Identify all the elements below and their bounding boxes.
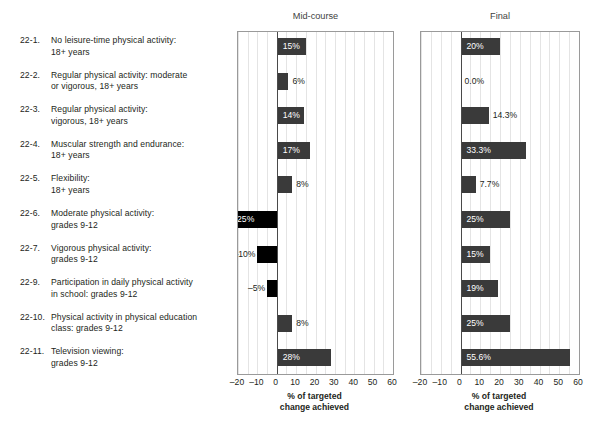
indicator-text-line2: grades 9-12 [51,358,228,370]
zero-axis-line [461,32,462,374]
gridline [316,32,317,374]
bar-value-label: 17% [283,142,300,159]
indicator-text-line1: Television viewing: [51,346,228,358]
gridline [345,32,346,374]
bar-value-label: 0.0% [465,73,485,90]
indicator-text: Vigorous physical activity:grades 9-12 [51,243,228,266]
indicator-label-row: 22-11.Television viewing:grades 9-12 [20,346,228,369]
gridline [257,32,258,374]
x-axis-tick-label: 0 [266,377,286,387]
gridline [520,32,521,374]
bar-value-label: –25% [237,211,254,228]
x-axis-caption-line2: change achieved [420,402,578,413]
plot-area: 15%6%14%17%8%–25%–10%–5%8%28% [237,31,394,375]
x-axis-tick-label: –10 [430,377,450,387]
bar-value-label: 14% [283,107,300,124]
figure-root: 22-1.No leisure-time physical activity:1… [0,0,603,433]
x-axis-tick-label: 20 [489,377,509,387]
x-axis-tick-label: 40 [343,377,363,387]
x-axis-tick-label: 30 [509,377,529,387]
bar [461,107,489,124]
gridline [383,32,384,374]
indicator-text: Moderate physical activity:grades 9-12 [51,208,228,231]
bar-value-label: 33.3% [467,142,491,159]
gridline [238,32,239,374]
gridline [335,32,336,374]
gridline [569,32,570,374]
indicator-label-row: 22-2.Regular physical activity: moderate… [20,70,228,93]
indicator-label-column: 22-1.No leisure-time physical activity:1… [0,0,228,433]
bar [267,280,277,297]
gridline [364,32,365,374]
indicator-number: 22-3. [20,104,51,116]
x-axis-tick-label: 0 [450,377,470,387]
bar [277,315,293,332]
indicator-text: Regular physical activity: moderateor vi… [51,70,228,93]
bar-value-label: 15% [467,246,484,263]
indicator-text-line2: vigorous, 18+ years [51,116,228,128]
bar-value-label: 6% [292,73,304,90]
gridline [540,32,541,374]
gridline [421,32,422,374]
x-axis-caption-line1: % of targeted [420,391,578,402]
x-axis-tick-label: 60 [568,377,588,387]
bar-value-label: 20% [467,38,484,55]
x-axis-tick-label: 50 [548,377,568,387]
bar-value-label: 7.7% [480,176,500,193]
bar-value-label: 55.6% [467,349,491,366]
indicator-label-row: 22-4.Muscular strength and endurance:18+… [20,139,228,162]
panel-title: Final [420,11,580,21]
indicator-number: 22-11. [20,346,51,358]
indicator-text-line2: 18+ years [51,150,228,162]
indicator-number: 22-9. [20,277,51,289]
x-axis-tick-label: –20 [410,377,430,387]
x-axis-caption-line1: % of targeted [237,391,392,402]
chart-panel-final: Final20%0.0%14.3%33.3%7.7%25%15%19%25%55… [420,0,580,433]
indicator-text-line2: or vigorous, 18+ years [51,81,228,93]
indicator-number: 22-7. [20,243,51,255]
indicator-text-line1: Moderate physical activity: [51,208,228,220]
indicator-number: 22-5. [20,173,51,185]
indicator-number: 22-10. [20,312,51,324]
indicator-text: Physical activity in physical educationc… [51,312,228,335]
indicator-number: 22-1. [20,35,51,47]
x-axis-ticks: –20–100102030405060 [420,377,578,389]
gridline [325,32,326,374]
x-axis-tick-label: 20 [305,377,325,387]
bar-value-label: 8% [296,315,308,332]
indicator-number: 22-2. [20,70,51,82]
indicator-label-row: 22-10.Physical activity in physical educ… [20,312,228,335]
x-axis-ticks: –20–100102030405060 [237,377,392,389]
gridline [451,32,452,374]
indicator-text-line1: Participation in daily physical activity [51,277,228,289]
indicator-text-line2: grades 9-12 [51,220,228,232]
bar [461,176,476,193]
bar-value-label: 14.3% [493,107,517,124]
bar [277,176,293,193]
x-axis-tick-label: 60 [382,377,402,387]
x-axis-tick-label: 40 [529,377,549,387]
gridline [579,32,580,374]
indicator-text-line1: Muscular strength and endurance: [51,139,228,151]
indicator-text-line1: Physical activity in physical education [51,312,228,324]
gridline [393,32,394,374]
indicator-text-line2: class: grades 9-12 [51,323,228,335]
indicator-number: 22-6. [20,208,51,220]
gridline [549,32,550,374]
indicator-text-line2: grades 9-12 [51,254,228,266]
gridline [441,32,442,374]
gridline [510,32,511,374]
chart-panel-mid-course: Mid-course15%6%14%17%8%–25%–10%–5%8%28%–… [237,0,394,433]
indicator-text-line2: 18+ years [51,185,228,197]
bar [277,73,289,90]
plot-area: 20%0.0%14.3%33.3%7.7%25%15%19%25%55.6% [420,31,580,375]
indicator-label-row: 22-7.Vigorous physical activity:grades 9… [20,243,228,266]
bar-value-label: 8% [296,176,308,193]
x-axis-tick-label: 10 [469,377,489,387]
bar-value-label: 25% [467,315,484,332]
zero-axis-line [277,32,278,374]
gridline [431,32,432,374]
bar-value-label: 15% [283,38,300,55]
bar-value-label: 28% [283,349,300,366]
indicator-text-line1: Vigorous physical activity: [51,243,228,255]
